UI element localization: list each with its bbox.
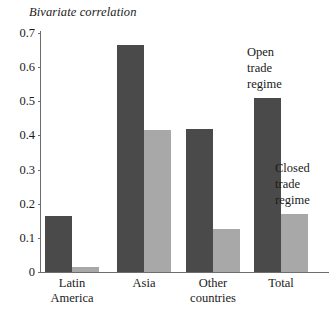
bar-open-trade-regime (186, 129, 213, 272)
plot-area (41, 33, 329, 272)
y-axis-tick-label: 0.6 (3, 61, 35, 74)
y-axis-tick-label: 0.1 (3, 232, 35, 245)
bar-open-trade-regime (45, 216, 72, 272)
y-axis-tick-label: 0.2 (3, 198, 35, 211)
x-axis-category-line: Total (232, 276, 330, 291)
bar-closed-trade-regime (72, 267, 99, 272)
annotation-closed-trade-regime: Closedtraderegime (275, 160, 310, 208)
bar-open-trade-regime (117, 45, 144, 272)
x-axis-category-line: countries (164, 291, 262, 306)
annotation-open-trade-regime: Opentraderegime (247, 44, 282, 92)
bar-group (117, 33, 171, 272)
y-axis-tick-label: 0.3 (3, 164, 35, 177)
bar-closed-trade-regime (213, 229, 240, 272)
annotation-line: regime (247, 76, 282, 92)
y-axis-tick-mark (38, 272, 41, 273)
annotation-line: trade (247, 60, 282, 76)
bar-group (186, 33, 240, 272)
x-axis-category-label: Total (232, 276, 330, 291)
bar-closed-trade-regime (144, 130, 171, 272)
annotation-line: regime (275, 192, 310, 208)
y-axis-tick-label: 0.7 (3, 27, 35, 40)
bar-group (45, 33, 99, 272)
annotation-line: Open (247, 44, 282, 60)
bar-closed-trade-regime (281, 214, 308, 272)
x-axis-category-line: America (23, 291, 121, 306)
bivariate-correlation-bar-chart: Bivariate correlation 0.70.60.50.40.30.2… (0, 0, 331, 316)
y-axis-tick-label: 0.4 (3, 129, 35, 142)
y-axis-tick-label: 0.5 (3, 95, 35, 108)
annotation-line: Closed (275, 160, 310, 176)
annotation-line: trade (275, 176, 310, 192)
